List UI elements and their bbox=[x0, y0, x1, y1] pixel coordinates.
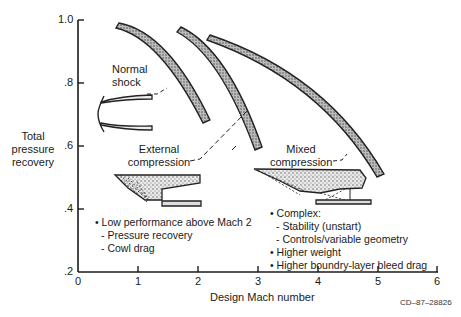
normal-shock-leader bbox=[147, 88, 167, 94]
external-compression-inlet-sketch bbox=[115, 175, 201, 206]
y-tick-0.2: .2 bbox=[64, 266, 73, 277]
y-tick-1.0: 1.0 bbox=[58, 14, 73, 25]
external-compression-label: External compression bbox=[122, 143, 196, 168]
y-axis-title: Total pressure recovery bbox=[8, 130, 58, 169]
mixed-compression-notes: • Complex: - Stability (unstart) - Contr… bbox=[270, 207, 427, 272]
x-tick-4: 4 bbox=[315, 276, 321, 287]
mixed-compression-inlet-sketch bbox=[254, 169, 371, 204]
y-tick-0.8: .8 bbox=[64, 77, 73, 88]
x-tick-5: 5 bbox=[375, 276, 381, 287]
x-tick-2: 2 bbox=[195, 276, 201, 287]
x-tick-3: 3 bbox=[255, 276, 261, 287]
x-tick-0: 0 bbox=[75, 276, 81, 287]
normal-shock-label: Normal shock bbox=[112, 63, 147, 88]
y-axis bbox=[78, 20, 84, 272]
y-tick-0.6: .6 bbox=[64, 140, 73, 151]
x-axis-title: Design Mach number bbox=[210, 291, 315, 303]
figure-code: CD–87–28826 bbox=[400, 298, 452, 307]
x-tick-1: 1 bbox=[135, 276, 141, 287]
normal-shock-inlet-sketch bbox=[98, 95, 152, 132]
external-compression-notes: • Low performance above Mach 2 - Pressur… bbox=[95, 216, 252, 255]
y-tick-0.4: .4 bbox=[64, 203, 73, 214]
external-leader bbox=[190, 110, 248, 161]
x-tick-6: 6 bbox=[434, 276, 440, 287]
mixed-compression-label: Mixed compression bbox=[270, 143, 332, 168]
